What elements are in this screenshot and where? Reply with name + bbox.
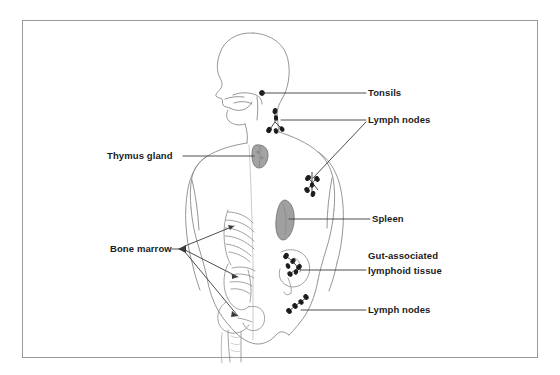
left-forearm	[192, 262, 200, 290]
label-galt-line1: Gut-associated	[368, 249, 438, 262]
thymus-gland-organ	[252, 145, 268, 168]
label-thymus-gland: Thymus gland	[107, 149, 173, 162]
label-lymph-nodes-upper: Lymph nodes	[368, 113, 431, 126]
gut-lymph-nodes	[283, 253, 302, 277]
cervical-lymph-nodes	[266, 108, 285, 134]
organs-group	[252, 145, 294, 240]
arrowhead-bone-marrow-hub	[178, 245, 186, 253]
torso-right-side	[279, 132, 335, 210]
torso-left-side	[190, 143, 247, 208]
lips	[225, 97, 244, 99]
leader-lines-group	[172, 93, 370, 317]
label-bone-marrow: Bone marrow	[110, 242, 172, 255]
leader-lymph-nodes-upper-b	[313, 122, 366, 178]
tongue	[234, 102, 252, 104]
mouth-jaw	[230, 102, 252, 110]
right-forearm	[329, 263, 337, 291]
label-spleen: Spleen	[372, 212, 404, 225]
ribs	[224, 210, 254, 265]
hip-left	[207, 278, 236, 333]
spleen-organ	[276, 200, 294, 240]
femur-trabeculae-2	[231, 343, 240, 345]
waist-right	[318, 210, 334, 280]
body-outline-group	[186, 33, 344, 344]
head-back	[253, 33, 289, 115]
femur-trabeculae-4	[231, 357, 240, 358]
label-lymph-nodes-lower: Lymph nodes	[368, 303, 431, 316]
label-galt-line2: lymphoid tissue	[368, 264, 442, 277]
spine-vertebrae	[224, 264, 255, 310]
right-arm-inner	[327, 178, 332, 228]
throat-passage	[257, 97, 258, 120]
label-tonsils: Tonsils	[368, 86, 401, 99]
pelvis-femur	[218, 302, 265, 363]
lymphatic-system-figure: Tonsils Lymph nodes Thymus gland Spleen …	[0, 0, 560, 375]
left-arm-outer	[186, 157, 206, 262]
chin	[227, 110, 245, 125]
anatomy-diagram	[0, 0, 560, 375]
neck-front	[245, 124, 247, 143]
femur-trabeculae-3	[231, 350, 240, 352]
femur-shaft-left	[228, 330, 230, 362]
leader-bone-marrow-femur	[185, 252, 238, 316]
lymph-node-clusters	[260, 91, 320, 315]
leg-outline	[221, 333, 222, 363]
skeleton-group	[218, 210, 310, 363]
femur-neck	[238, 318, 252, 322]
axillary-lymph-nodes	[304, 172, 320, 197]
femur-head	[243, 306, 265, 330]
rib-cage-edge	[224, 210, 231, 265]
crotch	[236, 332, 289, 344]
body-centerline	[249, 145, 253, 340]
inguinal-lymph-nodes	[286, 294, 309, 314]
sacrum-outline	[224, 264, 249, 310]
femur-trabeculae-1	[231, 336, 240, 338]
